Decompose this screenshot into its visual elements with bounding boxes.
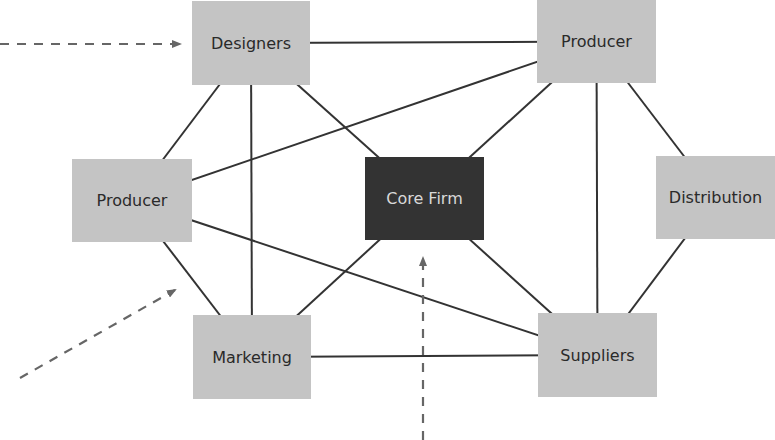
node-label: Marketing: [212, 348, 292, 367]
arrow-into-network-left-icon: [20, 290, 175, 378]
node-label: Core Firm: [386, 189, 462, 208]
node-label: Distribution: [669, 188, 762, 207]
node-designers: Designers: [192, 1, 310, 85]
network-diagram: DesignersProducerProducerCore FirmDistri…: [0, 0, 775, 440]
node-core-firm: Core Firm: [365, 157, 484, 240]
node-label: Suppliers: [560, 346, 634, 365]
node-producer-top: Producer: [537, 0, 656, 83]
node-distribution: Distribution: [656, 156, 775, 239]
edge-producer_top-suppliers: [597, 42, 598, 356]
edge-designers-marketing: [251, 43, 252, 357]
node-suppliers: Suppliers: [538, 313, 657, 397]
node-label: Producer: [561, 32, 632, 51]
node-marketing: Marketing: [193, 315, 311, 399]
node-label: Designers: [211, 34, 291, 53]
node-producer-left: Producer: [72, 159, 192, 242]
node-label: Producer: [97, 191, 168, 210]
